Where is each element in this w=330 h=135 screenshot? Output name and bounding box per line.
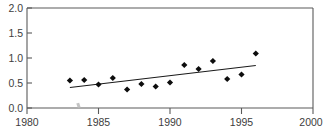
x-tick-label: 2000: [299, 116, 323, 128]
data-point: [238, 71, 244, 77]
x-axis-ticks: [27, 108, 313, 114]
y-tick-label: 0.0: [8, 102, 23, 114]
x-tick-label: 1985: [87, 116, 111, 128]
y-tick-label: 0.5: [8, 77, 23, 89]
scatter-chart: 2.0 1.5 1.0 0.5 0.0 1980 1985 1990 1995 …: [0, 0, 330, 135]
clipped-title-text: [26, 0, 314, 1]
y-tick-label: 1.5: [8, 27, 23, 39]
data-point: [138, 81, 144, 87]
x-tick-label: 1980: [15, 116, 39, 128]
data-point: [95, 81, 101, 87]
x-tick-label: 1990: [158, 116, 182, 128]
chart-canvas: 2.0 1.5 1.0 0.5 0.0 1980 1985 1990 1995 …: [0, 0, 330, 135]
data-point: [210, 58, 216, 64]
data-point: [181, 62, 187, 68]
data-point: [253, 50, 259, 56]
data-point-group: [67, 50, 259, 92]
x-axis-labels: 1980 1985 1990 1995 2000: [15, 116, 323, 128]
data-point: [110, 75, 116, 81]
data-point: [124, 86, 130, 92]
plot-frame: [27, 8, 313, 108]
data-point: [81, 77, 87, 83]
data-point: [153, 83, 159, 89]
y-tick-label: 1.0: [8, 52, 23, 64]
data-point: [167, 79, 173, 85]
y-tick-label: 2.0: [8, 2, 23, 14]
y-axis-labels: 2.0 1.5 1.0 0.5 0.0: [8, 2, 23, 114]
data-point: [196, 66, 202, 72]
y-axis-ticks: [27, 8, 32, 108]
data-point: [67, 77, 73, 83]
x-tick-label: 1995: [230, 116, 254, 128]
data-point: [224, 76, 230, 82]
